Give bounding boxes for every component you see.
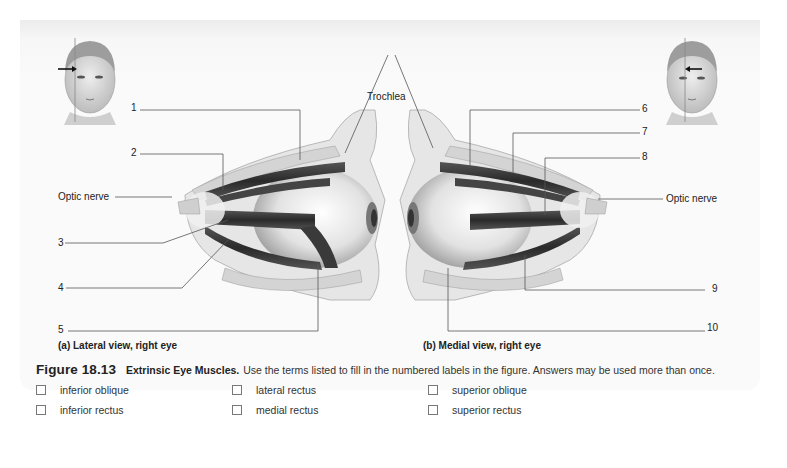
checkbox[interactable] <box>36 385 46 395</box>
optic-nerve-label-b: Optic nerve <box>666 193 717 205</box>
figure-instructions: Use the terms listed to fill in the numb… <box>243 364 715 376</box>
term-lateral-rectus[interactable]: lateral rectus <box>232 384 316 396</box>
label-8: 8 <box>642 151 648 163</box>
checkbox[interactable] <box>36 405 46 415</box>
term-superior-oblique[interactable]: superior oblique <box>428 384 527 396</box>
term-medial-rectus[interactable]: medial rectus <box>232 404 318 416</box>
caption-lateral-view: (a) Lateral view, right eye <box>58 340 177 351</box>
checkbox[interactable] <box>232 405 242 415</box>
optic-nerve-label-a: Optic nerve <box>58 191 109 203</box>
checkbox[interactable] <box>428 385 438 395</box>
figure-number: Figure 18.13 <box>36 362 116 377</box>
term-superior-rectus[interactable]: superior rectus <box>428 404 521 416</box>
label-10: 10 <box>707 322 718 334</box>
label-7: 7 <box>642 126 648 138</box>
term-inferior-rectus[interactable]: inferior rectus <box>36 404 124 416</box>
label-1: 1 <box>131 102 137 114</box>
label-6: 6 <box>642 103 648 115</box>
figure-title: Extrinsic Eye Muscles. <box>126 364 239 376</box>
checkbox[interactable] <box>428 405 438 415</box>
head-medial-orientation-icon <box>666 38 718 125</box>
head-lateral-orientation-icon <box>58 38 116 125</box>
label-9: 9 <box>712 283 718 295</box>
eye-muscle-illustration <box>0 0 787 468</box>
term-inferior-oblique[interactable]: inferior oblique <box>36 384 129 396</box>
label-4: 4 <box>58 282 64 294</box>
figure-caption: Figure 18.13Extrinsic Eye Muscles.Use th… <box>36 360 715 378</box>
trochlea-label: Trochlea <box>367 91 406 103</box>
label-3: 3 <box>58 237 64 249</box>
lateral-view-eye <box>178 110 385 300</box>
caption-medial-view: (b) Medial view, right eye <box>423 340 541 351</box>
label-5: 5 <box>58 324 64 336</box>
checkbox[interactable] <box>232 385 242 395</box>
label-2: 2 <box>131 147 137 159</box>
medial-view-eye <box>400 110 607 300</box>
